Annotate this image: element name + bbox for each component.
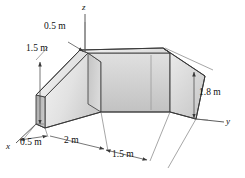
- dim-label-right-1-8: 1.8 m: [199, 88, 221, 98]
- dim-label-bottom-1-5: 1.5 m: [112, 150, 134, 160]
- solid-body: [36, 48, 205, 128]
- axis-label-y: y: [226, 117, 230, 126]
- dim-label-bottom-0-5: 0.5 m: [20, 138, 42, 148]
- dim-label-top-0-5: 0.5 m: [44, 22, 66, 32]
- extline-bottom-1-5-b: [150, 112, 170, 161]
- extline-bottom-0-5-b: [45, 128, 48, 137]
- dim-label-bottom-2: 2 m: [64, 136, 79, 146]
- face-left-bottom-end: [36, 95, 45, 128]
- axis-label-x: x: [6, 142, 10, 151]
- extline-bottom-right-far: [168, 119, 196, 168]
- extline-bottom-2-b: [101, 112, 108, 151]
- axis-label-z: z: [82, 3, 86, 12]
- face-inner-left: [88, 53, 101, 112]
- dim-label-left-1-5: 1.5 m: [26, 44, 48, 54]
- dimline-top-0-5: [68, 42, 83, 51]
